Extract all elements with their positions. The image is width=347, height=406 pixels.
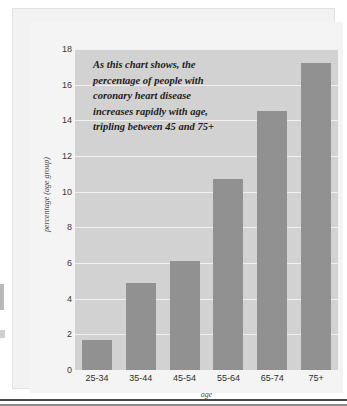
gridline [75, 334, 338, 335]
x-axis-tick-label: 65-74 [250, 374, 294, 383]
gridline [75, 49, 338, 50]
y-axis-tick-label: 14 [46, 116, 72, 125]
bar [213, 179, 243, 370]
y-axis-title: percentage (age group) [42, 140, 51, 250]
plot-area: As this chart shows, thepercentage of pe… [75, 49, 338, 370]
y-axis-tick-label: 18 [46, 45, 72, 54]
x-axis-tick-label: 35-44 [119, 374, 163, 383]
figure-frame: 024681012141618 percentage (age group) A… [12, 8, 335, 389]
x-axis-tick-label: 25-34 [75, 374, 119, 383]
y-axis-tick-label: 16 [46, 81, 72, 90]
chart-annotation: As this chart shows, thepercentage of pe… [93, 57, 278, 135]
x-axis-tick-label: 45-54 [163, 374, 207, 383]
page-edge-artifact [0, 330, 5, 338]
gridline [75, 263, 338, 264]
gridline [75, 299, 338, 300]
y-axis-tick-label: 0 [46, 366, 72, 375]
annotation-line: increases rapidly with age, [93, 104, 278, 120]
y-axis-tick-label: 4 [46, 295, 72, 304]
x-axis-tick-labels: 25-3435-4445-5455-6465-7475+ [75, 374, 338, 388]
bar [170, 261, 200, 370]
x-axis-tick-label: 55-64 [207, 374, 251, 383]
annotation-line: tripling between 45 and 75+ [93, 119, 278, 135]
gridline [75, 156, 338, 157]
bar [126, 283, 156, 370]
bar [301, 63, 331, 370]
x-axis-tick-label: 75+ [294, 374, 338, 383]
y-axis-tick-label: 2 [46, 330, 72, 339]
chart-card: 024681012141618 percentage (age group) A… [30, 22, 343, 393]
page-edge-artifact [0, 284, 4, 310]
y-axis-tick-label: 6 [46, 259, 72, 268]
annotation-line: As this chart shows, the [93, 57, 278, 73]
bar [257, 111, 287, 370]
bar [82, 340, 112, 370]
annotation-line: percentage of people with [93, 73, 278, 89]
gridline [75, 227, 338, 228]
page-bottom-rule [0, 399, 347, 401]
annotation-line: coronary heart disease [93, 88, 278, 104]
gridline [75, 192, 338, 193]
x-axis-title: age [75, 390, 338, 399]
